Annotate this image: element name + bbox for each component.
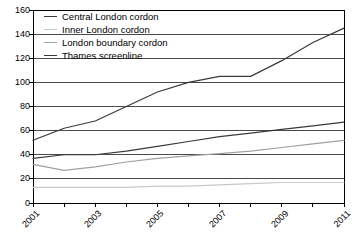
x-axis-tick-label: 2007 (203, 209, 228, 234)
chart-legend: Central London cordon Inner London cordo… (44, 10, 214, 62)
x-axis-tick-label: 2011 (328, 209, 353, 234)
legend-item: London boundary cordon (44, 36, 214, 49)
legend-swatch-thames-screenline (44, 55, 57, 56)
x-axis-tick-label: 2001 (17, 209, 42, 234)
x-axis-tick-label: 2005 (141, 209, 166, 234)
legend-swatch-london-boundary-cordon (44, 42, 57, 43)
legend-item: Inner London cordon (44, 23, 214, 36)
legend-item: Thames screenline (44, 49, 214, 62)
x-axis-tick-label: 2003 (79, 209, 104, 234)
legend-label: Inner London cordon (62, 25, 150, 35)
legend-label: London boundary cordon (62, 38, 168, 48)
legend-item: Central London cordon (44, 10, 214, 23)
legend-swatch-central-london-cordon (44, 16, 57, 17)
x-axis-tick-label: 2009 (265, 209, 290, 234)
legend-label: Central London cordon (62, 12, 159, 22)
legend-label: Thames screenline (62, 51, 142, 61)
legend-swatch-inner-london-cordon (44, 29, 57, 30)
line-chart: 160140120100806040200 200120032005200720… (0, 0, 356, 242)
